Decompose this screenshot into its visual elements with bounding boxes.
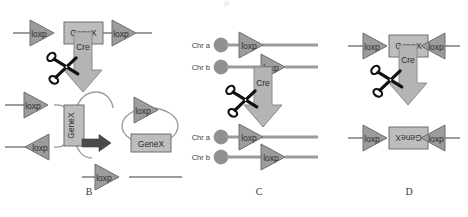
panel-b-synapse-loxp-lower-label: loxp <box>32 143 48 153</box>
panel-c-product-chr-a-centromere <box>214 130 228 144</box>
panel-b-circle-loxp-label: loxp <box>135 106 151 116</box>
panel-d: loxp GeneX loxp Cre <box>348 33 460 151</box>
panel-b-loxp-right-label: loxp <box>113 29 129 39</box>
panel-d-product-genex-label-inverted: GeneX <box>395 133 422 143</box>
panel-b-synapse-loxp-upper: loxp <box>24 92 48 118</box>
panel-b-product-arrow <box>82 135 111 152</box>
panel-b-loxp-left: loxp <box>30 20 54 46</box>
panel-d-loxp-left: loxp <box>363 33 387 59</box>
panel-d-product-loxp-left-label: loxp <box>364 134 380 144</box>
panel-d-loxp-right-label: loxp <box>428 42 444 52</box>
panel-c-product-chr-b-label: Chr b <box>192 153 210 162</box>
panel-b-synapse-loxp-lower: loxp <box>25 134 49 160</box>
panel-d-loxp-left-label: loxp <box>364 42 380 52</box>
panel-b-circle-loxp: loxp <box>134 97 158 123</box>
panel-b: loxp GeneX loxp Cre <box>5 20 182 190</box>
panel-c-product-chr-a-label: Chr a <box>192 133 211 142</box>
panel-d-product-loxp-left: loxp <box>363 125 387 151</box>
panel-c-product-chr-a-loxp: loxp <box>239 124 263 150</box>
figure-canvas: µ <box>0 0 468 217</box>
panel-c-substrate-chr-b-label: Chr b <box>192 63 210 72</box>
panel-c-substrate-chr-a-loxp-label: loxp <box>241 41 257 51</box>
panel-c: Chr a loxp Chr b loxp Cre <box>192 32 318 170</box>
top-partial-mark: µ <box>224 0 230 7</box>
panel-b-circle-genex-box: GeneX <box>131 134 171 152</box>
panel-c-substrate-chr-a-loxp: loxp <box>239 32 263 58</box>
cre-loxp-diagram: loxp GeneX loxp Cre <box>0 0 468 217</box>
panel-d-caption: D <box>399 186 419 197</box>
panel-c-cre-label: Cre <box>256 78 270 88</box>
panel-b-cre-label: Cre <box>76 42 90 52</box>
panel-c-product-chr-b-loxp: loxp <box>261 144 285 170</box>
panel-c-substrate-chr-a-centromere <box>214 38 228 52</box>
panel-b-loxp-right: loxp <box>112 20 136 46</box>
panel-b-caption: B <box>79 186 99 197</box>
panel-c-product-chr-b-centromere <box>214 150 228 164</box>
panel-b-synapse-genex-box: GeneX <box>64 105 84 146</box>
panel-c-product-chr-b-loxp-label: loxp <box>263 153 279 163</box>
panel-c-product-chr-a-loxp-label: loxp <box>241 133 257 143</box>
panel-c-caption: C <box>249 186 269 197</box>
panel-b-synapse-genex-label: GeneX <box>66 112 76 139</box>
panel-c-substrate-chr-b-centromere <box>214 60 228 74</box>
panel-b-loxp-left-label: loxp <box>31 29 47 39</box>
panel-b-circle-genex-label: GeneX <box>138 139 165 149</box>
panel-c-substrate-chr-a-label: Chr a <box>192 41 211 50</box>
panel-b-synapse-loxp-upper-label: loxp <box>25 101 41 111</box>
panel-d-cre-label: Cre <box>401 55 415 65</box>
panel-d-product-loxp-right-label: loxp <box>428 134 444 144</box>
panel-b-residual-loxp-label: loxp <box>96 173 112 183</box>
